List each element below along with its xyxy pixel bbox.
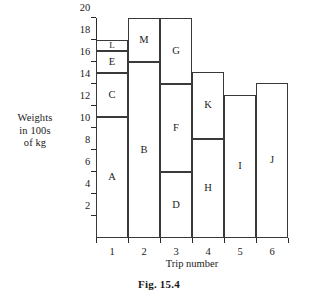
bar-segment-K[interactable]: K bbox=[192, 72, 224, 139]
y-axis-tick-label: 8 bbox=[68, 135, 90, 146]
bar-trip-3[interactable]: DFG bbox=[160, 18, 192, 238]
y-axis-tick bbox=[91, 17, 96, 18]
bar-trip-2[interactable]: BM bbox=[128, 18, 160, 238]
bar-segment-A[interactable]: A bbox=[96, 117, 128, 238]
bar-trip-6[interactable]: J bbox=[256, 83, 288, 238]
y-axis-tick-label: 16 bbox=[68, 47, 90, 58]
x-axis-tick bbox=[224, 238, 225, 243]
bar-segment-label: D bbox=[172, 200, 180, 211]
y-axis-tick-label: 14 bbox=[68, 69, 90, 80]
y-axis-title-line-1: Weights bbox=[4, 112, 66, 125]
x-axis-tick bbox=[192, 238, 193, 243]
x-axis-tick-label: 2 bbox=[132, 246, 156, 257]
x-axis-tick bbox=[256, 238, 257, 243]
y-axis-tick-label: 6 bbox=[68, 157, 90, 168]
y-axis-tick-label: 4 bbox=[68, 179, 90, 190]
x-axis-title: Trip number bbox=[96, 258, 288, 270]
bar-segment-G[interactable]: G bbox=[160, 18, 192, 84]
bar-segment-label: L bbox=[109, 40, 115, 51]
y-axis-tick-label: 2 bbox=[68, 201, 90, 212]
bar-trip-4[interactable]: HK bbox=[192, 72, 224, 238]
bar-trip-1[interactable]: ACEL bbox=[96, 40, 128, 238]
y-axis-tick-label: 12 bbox=[68, 91, 90, 102]
bar-segment-J[interactable]: J bbox=[256, 83, 288, 238]
bar-segment-label: K bbox=[204, 100, 212, 111]
y-axis-title-line-2: in 100s bbox=[4, 125, 66, 138]
bar-segment-label: H bbox=[204, 183, 212, 194]
y-axis-tick-label: 10 bbox=[68, 113, 90, 124]
bar-segment-H[interactable]: H bbox=[192, 139, 224, 238]
figure-container: Weights in 100s of kg 2468101214161820 1… bbox=[0, 0, 318, 302]
x-axis-tick-label: 3 bbox=[164, 246, 188, 257]
x-axis-tick-label: 1 bbox=[100, 246, 124, 257]
x-axis-tick bbox=[96, 238, 97, 243]
x-axis-tick-label: 6 bbox=[260, 246, 284, 257]
bar-trip-5[interactable]: I bbox=[224, 95, 256, 238]
bar-segment-F[interactable]: F bbox=[160, 84, 192, 172]
plot-area: 2468101214161820 123456 ACELBMDFGHKIJ bbox=[96, 18, 288, 238]
bar-segment-D[interactable]: D bbox=[160, 172, 192, 238]
bar-segment-label: M bbox=[139, 35, 148, 46]
bar-segment-label: A bbox=[108, 172, 116, 183]
bar-segment-label: E bbox=[109, 57, 115, 68]
bar-segment-label: F bbox=[173, 123, 179, 134]
bar-segment-E[interactable]: E bbox=[96, 51, 128, 73]
bar-segment-B[interactable]: B bbox=[128, 62, 160, 238]
figure-caption: Fig. 15.4 bbox=[0, 278, 318, 291]
bar-segment-label: J bbox=[270, 155, 274, 166]
y-axis-title: Weights in 100s of kg bbox=[4, 112, 66, 150]
x-axis-tick bbox=[288, 238, 289, 243]
bar-segment-label: I bbox=[238, 161, 242, 172]
bar-segment-label: B bbox=[140, 145, 147, 156]
bar-segment-label: G bbox=[172, 46, 180, 57]
bar-segment-L[interactable]: L bbox=[96, 40, 128, 51]
bar-segment-M[interactable]: M bbox=[128, 18, 160, 62]
bar-segment-I[interactable]: I bbox=[224, 95, 256, 238]
y-axis-title-line-3: of kg bbox=[4, 137, 66, 150]
x-axis-tick-label: 4 bbox=[196, 246, 220, 257]
x-axis-tick bbox=[128, 238, 129, 243]
x-axis-tick bbox=[160, 238, 161, 243]
y-axis-tick-label: 18 bbox=[68, 25, 90, 36]
x-axis-tick-label: 5 bbox=[228, 246, 252, 257]
bar-segment-C[interactable]: C bbox=[96, 73, 128, 117]
bar-segment-label: C bbox=[108, 90, 115, 101]
y-axis-tick-label: 20 bbox=[68, 3, 90, 14]
